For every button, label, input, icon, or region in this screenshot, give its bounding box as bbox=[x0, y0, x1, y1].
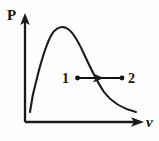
diagram-canvas: P v 1 2 bbox=[0, 0, 159, 141]
x-axis-label: v bbox=[146, 114, 153, 130]
physics-diagram-figure: P v 1 2 bbox=[0, 0, 159, 141]
state-1-label: 1 bbox=[62, 71, 69, 86]
distribution-curve bbox=[30, 27, 136, 112]
state-1-point-marker bbox=[75, 76, 80, 81]
state-2-label: 2 bbox=[128, 71, 135, 86]
state-2-point-marker bbox=[120, 76, 125, 81]
y-axis-label: P bbox=[7, 7, 16, 23]
